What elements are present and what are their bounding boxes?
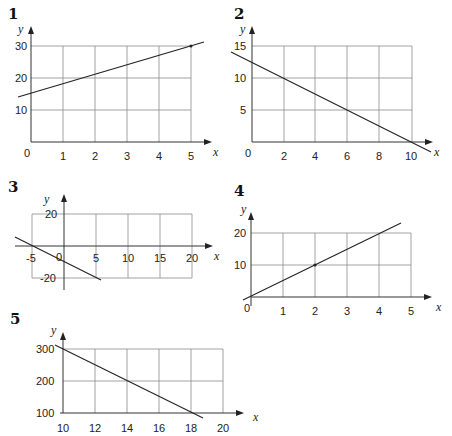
graph-4-point	[313, 263, 316, 266]
graph-3-xtick: 5	[93, 252, 99, 264]
graph-1-xtick: 5	[188, 150, 194, 162]
graph-1-point	[190, 45, 193, 48]
graph-3-ytick: -20	[40, 272, 56, 284]
graph-1-xtick: 1	[60, 150, 66, 162]
graph-4-xtick: 4	[376, 305, 382, 317]
graph-3-y-label: y	[43, 192, 50, 206]
graph-2-xtick: 6	[344, 150, 350, 162]
graph-2-xtick: 4	[312, 150, 318, 162]
graph-1-xtick: 4	[156, 150, 162, 162]
graph-3-x-label: x	[213, 249, 220, 263]
graph-3-y-arrow-icon	[61, 194, 67, 202]
graph-5-ytick: 300	[36, 343, 54, 355]
graph-2-x-label: x	[433, 145, 440, 159]
graph-5-ytick: 200	[36, 375, 54, 387]
graph-4-ytick: 20	[234, 227, 246, 239]
graph-4-xtick: 2	[312, 305, 318, 317]
graph-5-xtick: 18	[185, 422, 197, 434]
graph-4-xtick: 1	[280, 305, 286, 317]
graph-5-xtick: 12	[89, 422, 101, 434]
graphs-figure: 1 y x 0 1 2 3 4 5 10 20 30 2	[0, 0, 452, 436]
graph-3-ytick: 20	[45, 208, 57, 220]
graph-3-origin: 0	[56, 251, 62, 263]
graph-4-y-label: y	[240, 202, 247, 216]
graph-4-ytick: 10	[234, 259, 246, 271]
graph-1-origin: 0	[24, 147, 30, 159]
graph-3-xtick: 10	[122, 252, 134, 264]
graph-5: 5 y x 10 12 14 16 18 20 100 200 300	[10, 310, 259, 434]
graph-2-x-arrow-icon	[425, 139, 433, 145]
graph-2: 2 y x 0 2 4 6 8 10 5 10 15	[231, 5, 440, 162]
graph-5-y-label: y	[50, 323, 57, 337]
graph-1-xtick: 2	[92, 150, 98, 162]
graph-5-grid	[63, 349, 223, 413]
graph-1-ytick: 20	[15, 72, 27, 84]
graph-2-grid	[252, 46, 412, 142]
graph-2-xtick: 10	[405, 150, 417, 162]
graph-3-number: 3	[8, 178, 18, 196]
graph-5-x-label: x	[252, 410, 259, 424]
graph-5-number: 5	[10, 310, 20, 328]
graph-5-xtick: 10	[57, 422, 69, 434]
graph-1-number: 1	[8, 5, 18, 23]
graph-4-y-arrow-icon	[248, 212, 254, 220]
graph-1-line	[18, 42, 204, 97]
graph-1-grid	[31, 46, 191, 142]
graph-4-number: 4	[234, 182, 244, 200]
graph-4-origin: 0	[244, 302, 250, 314]
graph-1-xtick: 3	[124, 150, 130, 162]
graph-5-xtick: 20	[217, 422, 229, 434]
graph-2-y-label: y	[239, 22, 246, 36]
graph-2-origin: 0	[245, 147, 251, 159]
graph-4-line	[243, 223, 401, 300]
graph-3-x-arrow-icon	[205, 243, 213, 249]
graph-1: 1 y x 0 1 2 3 4 5 10 20 30	[8, 5, 219, 162]
graph-3-xtick: 20	[186, 252, 198, 264]
graph-4: 4 y x 0 1 2 3 4 5 10 20	[234, 182, 442, 317]
graph-2-xtick: 2	[281, 150, 287, 162]
graph-1-y-arrow-icon	[28, 26, 34, 34]
graph-1-ytick: 30	[15, 40, 27, 52]
graph-2-ytick: 15	[234, 40, 246, 52]
graph-4-x-arrow-icon	[424, 294, 432, 300]
graph-2-ytick: 5	[240, 104, 246, 116]
graph-5-y-arrow-icon	[60, 332, 66, 340]
graph-1-y-label: y	[17, 22, 24, 36]
graph-3-xtick: -5	[26, 252, 36, 264]
graph-3: 3 y x 0 -5 5 10 15 20 20 -20	[8, 178, 220, 290]
graph-5-x-arrow-icon	[236, 410, 244, 416]
graph-2-number: 2	[234, 5, 244, 23]
graph-5-xtick: 14	[121, 422, 133, 434]
graph-2-xtick: 8	[376, 150, 382, 162]
graph-5-xtick: 16	[153, 422, 165, 434]
graph-1-x-label: x	[212, 145, 219, 159]
graph-5-line	[55, 345, 203, 418]
graph-4-x-label: x	[435, 300, 442, 314]
graph-3-xtick: 15	[154, 252, 166, 264]
graph-1-ytick: 10	[15, 104, 27, 116]
graph-2-line	[231, 52, 431, 152]
graph-5-ytick: 100	[36, 407, 54, 419]
graph-4-xtick: 5	[408, 305, 414, 317]
graph-4-xtick: 3	[344, 305, 350, 317]
graph-2-ytick: 10	[234, 72, 246, 84]
graph-4-grid	[251, 233, 411, 297]
graph-2-y-arrow-icon	[249, 26, 255, 34]
graph-1-x-arrow-icon	[204, 139, 212, 145]
